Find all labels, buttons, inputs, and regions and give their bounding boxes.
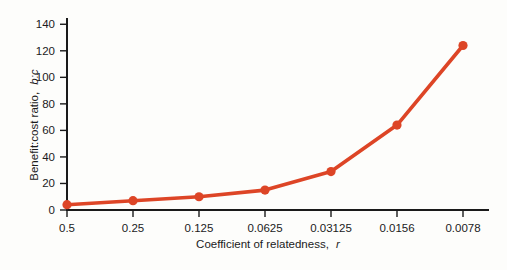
data-point-marker [326,167,335,176]
x-tick-label: 0.0625 [247,222,282,234]
x-axis-label-italic: r [336,238,341,250]
data-point-marker [194,192,203,201]
data-point-marker [62,200,71,209]
x-axis-label: Coefficient of relatedness, r [196,238,341,250]
y-tick-label: 140 [36,18,55,30]
data-point-marker [260,186,269,195]
chart-plot-area: Benefit:cost ratio, b:c Coefficient of r… [0,0,507,270]
x-axis-label-plain: Coefficient of relatedness, [196,238,329,250]
y-tick-label: 40 [42,151,55,163]
x-tick-label: 0.0156 [379,222,414,234]
x-tick-label: 0.0078 [445,222,480,234]
y-axis-label-plain: Benefit:cost ratio, [28,92,40,181]
y-axis-ticks: 020406080100120140 [36,18,67,216]
x-tick-label: 0.03125 [310,222,352,234]
data-point-marker [458,41,467,50]
data-point-marker [392,120,401,129]
series-line [67,45,463,204]
x-tick-label: 0.5 [59,222,75,234]
y-tick-label: 100 [36,71,55,83]
y-tick-label: 120 [36,45,55,57]
data-series-group [62,41,467,209]
y-axis-label: Benefit:cost ratio, b:c [28,69,40,181]
x-tick-label: 0.125 [185,222,214,234]
chart-figure: Benefit:cost ratio, b:c Coefficient of r… [0,0,507,270]
y-tick-label: 60 [42,124,55,136]
x-axis-ticks: 0.50.250.1250.06250.031250.01560.0078 [59,210,481,234]
data-point-marker [128,196,137,205]
y-tick-label: 20 [42,177,55,189]
y-tick-label: 0 [49,204,55,216]
x-tick-label: 0.25 [122,222,144,234]
y-tick-label: 80 [42,98,55,110]
